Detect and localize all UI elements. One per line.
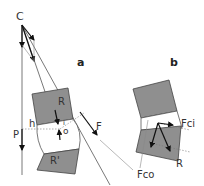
label-p: P: [13, 129, 19, 140]
panel-b: b Fci R Fco: [100, 56, 195, 180]
label-fco: Fco: [137, 169, 154, 180]
panel-a: C a R F h P i o R': [13, 10, 110, 185]
force-arrow-f: [80, 112, 97, 135]
force-triangle-side: [22, 45, 34, 61]
label-r-prime: R': [50, 155, 60, 166]
joint: [37, 119, 80, 154]
label-c: C: [16, 10, 24, 23]
label-r: R: [58, 96, 65, 107]
label-r-b: R: [176, 158, 183, 169]
block-lower-b: [136, 126, 181, 161]
panel-label-b: b: [170, 56, 178, 69]
force-arrow-tangent: [22, 25, 34, 40]
fco-leader: [100, 140, 133, 170]
label-h: h: [29, 118, 35, 129]
label-o: o: [63, 126, 69, 136]
diagram-canvas: C a R F h P i o R' b Fci R Fco: [0, 0, 204, 186]
block-r: [32, 88, 73, 125]
label-fci: Fci: [181, 118, 195, 129]
panel-label-a: a: [77, 56, 84, 69]
label-f: F: [96, 121, 102, 132]
